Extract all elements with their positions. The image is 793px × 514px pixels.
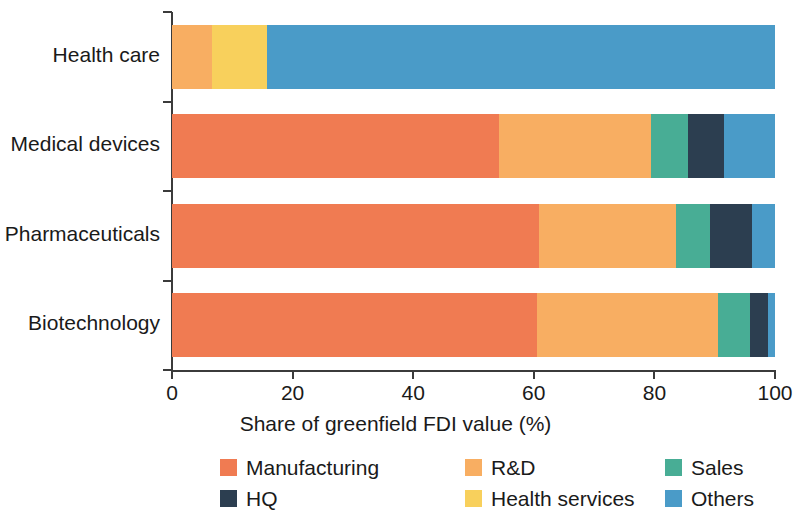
category-label: Medical devices — [0, 132, 160, 156]
legend-swatch-icon — [665, 459, 682, 476]
x-axis-tick-label: 40 — [402, 381, 425, 405]
bar-segment — [718, 293, 750, 357]
chart-legend: ManufacturingR&DSalesHQHealth servicesOt… — [220, 452, 750, 514]
y-axis-tick — [163, 11, 172, 13]
x-axis-tick — [412, 370, 414, 379]
y-axis-tick — [163, 190, 172, 192]
bar-segment — [676, 204, 710, 268]
bar-segment — [212, 25, 267, 89]
bar-segment — [499, 114, 651, 178]
y-axis-tick — [163, 101, 172, 103]
x-axis-tick — [533, 370, 535, 379]
legend-label: HQ — [246, 487, 278, 511]
y-axis-tick — [163, 280, 172, 282]
legend-label: Health services — [491, 487, 635, 511]
legend-label: Others — [691, 487, 754, 511]
x-axis-tick — [653, 370, 655, 379]
legend-item[interactable]: Others — [665, 487, 785, 511]
bar-segment — [752, 204, 775, 268]
bar-segment — [172, 204, 539, 268]
bar-segment — [172, 114, 499, 178]
legend-item[interactable]: HQ — [220, 487, 465, 511]
bar-segment — [539, 204, 676, 268]
bar-segment — [172, 293, 537, 357]
bar-stack — [172, 114, 775, 178]
bar-segment — [750, 293, 768, 357]
legend-label: Manufacturing — [246, 456, 379, 480]
legend-label: Sales — [691, 456, 744, 480]
x-axis-title: Share of greenfield FDI value (%) — [0, 412, 791, 436]
x-axis-tick-label: 20 — [281, 381, 304, 405]
bar-stack — [172, 25, 775, 89]
bar-stack — [172, 204, 775, 268]
legend-item[interactable]: Health services — [465, 487, 665, 511]
plot-area — [172, 12, 775, 370]
category-label: Pharmaceuticals — [0, 222, 160, 246]
bar-segment — [172, 25, 212, 89]
bar-segment — [651, 114, 688, 178]
bar-stack — [172, 293, 775, 357]
bar-segment — [267, 25, 775, 89]
x-axis-line — [171, 370, 776, 372]
x-axis-tick-label: 60 — [522, 381, 545, 405]
x-axis-tick-label: 0 — [166, 381, 178, 405]
legend-item[interactable]: Sales — [665, 456, 785, 480]
x-axis-tick-label: 100 — [757, 381, 792, 405]
legend-item[interactable]: R&D — [465, 456, 665, 480]
bar-segment — [768, 293, 775, 357]
legend-item[interactable]: Manufacturing — [220, 456, 465, 480]
x-axis-tick — [774, 370, 776, 379]
legend-swatch-icon — [465, 459, 482, 476]
x-axis-tick-label: 80 — [643, 381, 666, 405]
bar-segment — [710, 204, 752, 268]
legend-swatch-icon — [665, 490, 682, 507]
legend-swatch-icon — [220, 490, 237, 507]
category-label: Health care — [0, 43, 160, 67]
legend-swatch-icon — [465, 490, 482, 507]
x-axis-tick — [171, 370, 173, 379]
legend-label: R&D — [491, 456, 535, 480]
x-axis-tick — [292, 370, 294, 379]
category-label: Biotechnology — [0, 311, 160, 335]
bar-segment — [724, 114, 775, 178]
legend-swatch-icon — [220, 459, 237, 476]
bar-segment — [688, 114, 724, 178]
bar-segment — [537, 293, 718, 357]
